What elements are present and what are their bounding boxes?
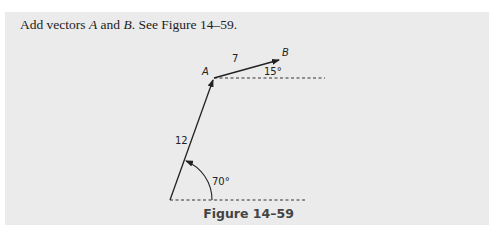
label-a: A xyxy=(201,66,209,77)
magnitude-a: 12 xyxy=(175,135,188,146)
angle-b: 15° xyxy=(264,66,282,77)
vector-diagram: A B 7 15° 12 70° xyxy=(0,0,491,237)
angle-arc-70 xyxy=(186,161,212,200)
angle-a: 70° xyxy=(212,176,230,187)
label-b: B xyxy=(282,47,289,58)
caption-text: Figure 14–59 xyxy=(203,206,294,221)
magnitude-b: 7 xyxy=(232,53,238,64)
figure-caption: Figure 14–59 xyxy=(0,206,491,221)
